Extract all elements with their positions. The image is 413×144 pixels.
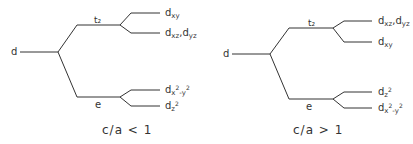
left-caption: c/a < 1 xyxy=(102,124,152,136)
right-caption: c/a > 1 xyxy=(293,124,343,136)
left-level-dz2: dz2 xyxy=(165,101,179,111)
right-t2-label: t₂ xyxy=(308,18,315,28)
left-root-label-d: d xyxy=(11,47,17,57)
right-level-dz2: dz2 xyxy=(378,87,392,97)
left-level-dxy: dxy xyxy=(165,8,180,18)
right-e-label: e xyxy=(306,102,312,112)
left-e-label: e xyxy=(95,100,101,110)
left-level-dx2-y2: dx2-y2 xyxy=(165,85,190,95)
right-level-dxz-dyz: dxz,dyz xyxy=(378,16,410,26)
right-root-label-d: d xyxy=(223,49,229,59)
left-t2-label: t₂ xyxy=(94,15,101,25)
left-level-dxz-dyz: dxz,dyz xyxy=(165,28,197,38)
right-level-dxy: dxy xyxy=(378,37,393,47)
right-tree xyxy=(232,21,372,108)
splitting-diagram-lines xyxy=(0,0,413,144)
right-level-dx2-y2: dx2-y2 xyxy=(378,103,403,113)
left-tree xyxy=(20,13,160,106)
